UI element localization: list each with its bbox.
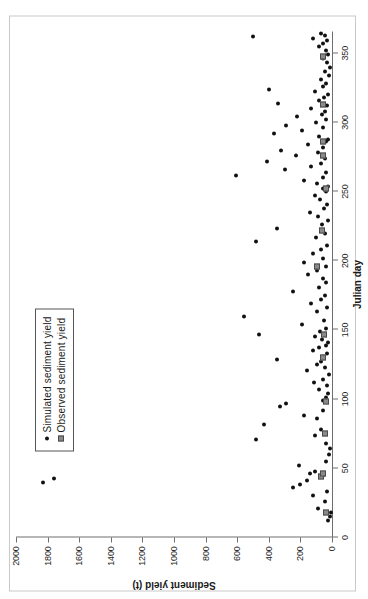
simulated-data-point [306, 142, 310, 146]
simulated-data-point [321, 125, 325, 129]
x-axis-title: Julian day [352, 260, 363, 309]
observed-data-point [320, 152, 326, 158]
simulated-data-point [326, 52, 330, 56]
x-tick-label: 300 [340, 115, 350, 129]
simulated-data-point [319, 247, 323, 251]
simulated-data-point [321, 377, 325, 381]
simulated-data-point [275, 357, 279, 361]
simulated-data-point [317, 134, 321, 138]
simulated-data-point [41, 480, 45, 484]
simulated-data-point [325, 351, 329, 355]
simulated-data-point [300, 128, 304, 132]
simulated-data-point [323, 293, 327, 297]
simulated-data-point [326, 92, 330, 96]
simulated-data-point [323, 33, 327, 37]
simulated-data-point [319, 77, 323, 81]
dot-marker-icon [45, 432, 49, 444]
simulated-data-point [313, 469, 317, 473]
simulated-data-point [313, 334, 317, 338]
simulated-data-point [325, 489, 329, 493]
y-tick-label: 1000 [169, 546, 179, 565]
simulated-data-point [318, 197, 322, 201]
simulated-data-point [298, 482, 302, 486]
simulated-data-point [234, 173, 238, 177]
y-tick [332, 537, 333, 542]
simulated-data-point [324, 170, 328, 174]
simulated-data-point [52, 476, 56, 480]
simulated-data-point [326, 137, 330, 141]
x-tick [333, 190, 338, 191]
y-tick [269, 537, 270, 542]
simulated-data-point [321, 145, 325, 149]
observed-data-point [321, 331, 327, 337]
simulated-data-point [265, 159, 269, 163]
simulated-data-point [324, 264, 328, 268]
simulated-data-point [279, 148, 283, 152]
simulated-data-point [319, 297, 323, 301]
simulated-data-point [267, 87, 271, 91]
simulated-data-point [326, 340, 330, 344]
simulated-data-point [291, 289, 295, 293]
simulated-data-point [313, 433, 317, 437]
observed-data-point [323, 509, 329, 515]
simulated-data-point [323, 109, 327, 113]
y-tick-label: 2000 [11, 546, 21, 565]
simulated-data-point [325, 103, 329, 107]
observed-data-point [320, 470, 326, 476]
simulated-data-point [323, 69, 327, 73]
simulated-data-point [324, 48, 328, 52]
simulated-data-point [322, 318, 326, 322]
simulated-data-point [312, 380, 316, 384]
simulated-data-point [284, 123, 288, 127]
x-tick [333, 121, 338, 122]
simulated-data-point [297, 463, 301, 467]
simulated-data-point [322, 206, 326, 210]
simulated-data-point [323, 499, 327, 503]
simulated-data-point [275, 226, 279, 230]
observed-data-point [320, 53, 326, 59]
simulated-data-point [257, 332, 261, 336]
legend-label-simulated: Simulated sediment yield [42, 316, 53, 432]
x-tick-label: 250 [340, 184, 350, 198]
simulated-data-point [308, 471, 312, 475]
simulated-data-point [317, 345, 321, 349]
plot-area [16, 32, 332, 537]
simulated-data-point [325, 202, 329, 206]
y-tick [111, 537, 112, 542]
simulated-data-point [319, 161, 323, 165]
simulated-data-point [317, 387, 321, 391]
simulated-data-point [313, 90, 317, 94]
simulated-data-point [284, 401, 288, 405]
simulated-data-point [320, 222, 324, 226]
x-tick-label: 200 [340, 253, 350, 267]
simulated-data-point [326, 218, 330, 222]
x-axis-line [332, 31, 333, 537]
observed-data-point [323, 398, 329, 404]
simulated-data-point [325, 38, 329, 42]
simulated-data-point [324, 280, 328, 284]
x-tick-label: 50 [340, 463, 350, 473]
simulated-data-point [324, 459, 328, 463]
simulated-data-point [291, 485, 295, 489]
x-tick [333, 467, 338, 468]
y-tick-label: 200 [295, 546, 305, 560]
simulated-data-point [302, 413, 306, 417]
simulated-data-point [325, 383, 329, 387]
simulated-data-point [311, 348, 315, 352]
y-tick [237, 537, 238, 542]
simulated-data-point [319, 31, 323, 35]
simulated-data-point [316, 506, 320, 510]
simulated-data-point [325, 243, 329, 247]
x-tick-label: 150 [340, 322, 350, 336]
simulated-data-point [295, 114, 299, 118]
simulated-data-point [305, 368, 309, 372]
y-tick-label: 1400 [106, 546, 116, 565]
observed-data-point [320, 138, 326, 144]
simulated-data-point [321, 256, 325, 260]
simulated-data-point [315, 416, 319, 420]
y-tick [174, 537, 175, 542]
scatter-chart-figure: 050100150200250300350 020040060080010001… [0, 0, 368, 599]
simulated-data-point [262, 422, 266, 426]
simulated-data-point [294, 153, 298, 157]
x-tick [333, 52, 338, 53]
